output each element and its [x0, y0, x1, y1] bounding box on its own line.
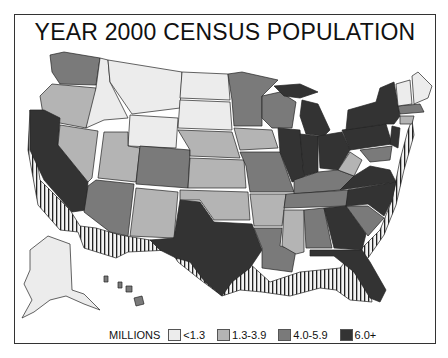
state-iowa — [234, 128, 278, 150]
state-mississippi — [282, 210, 304, 254]
state-hawaii — [104, 276, 144, 306]
state-wyoming — [128, 115, 178, 148]
state-north-dakota — [180, 72, 230, 100]
state-maryland — [360, 146, 392, 162]
state-colorado — [136, 146, 190, 188]
state-new-jersey — [390, 126, 400, 148]
state-maine — [412, 72, 432, 104]
state-vermont-nh — [396, 80, 412, 106]
state-washington — [50, 52, 100, 85]
state-arkansas — [250, 194, 286, 226]
state-south-dakota — [178, 100, 232, 130]
us-map — [0, 0, 448, 358]
state-new-york — [346, 82, 400, 130]
state-michigan — [300, 100, 330, 136]
state-wisconsin — [262, 92, 296, 128]
state-new-mexico — [130, 188, 178, 238]
state-kansas — [188, 158, 246, 188]
state-connecticut — [400, 116, 414, 124]
